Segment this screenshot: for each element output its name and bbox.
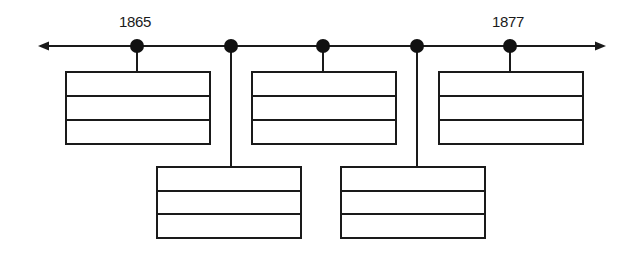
event-box-5-row-1[interactable] bbox=[440, 73, 582, 97]
event-box-1-row-2[interactable] bbox=[67, 97, 209, 121]
event-box-2-row-2[interactable] bbox=[158, 192, 300, 216]
event-box-4-row-3[interactable] bbox=[342, 215, 484, 237]
event-box-5-row-2[interactable] bbox=[440, 97, 582, 121]
timeline-dot-3 bbox=[316, 39, 330, 53]
event-box-2 bbox=[156, 166, 302, 239]
year-label-start: 1865 bbox=[119, 14, 151, 29]
event-box-4-row-2[interactable] bbox=[342, 192, 484, 216]
arrow-left-icon bbox=[38, 42, 49, 51]
event-box-3-row-3[interactable] bbox=[253, 121, 395, 143]
event-box-3-row-1[interactable] bbox=[253, 73, 395, 97]
event-box-4 bbox=[340, 166, 486, 239]
event-box-5 bbox=[438, 71, 584, 145]
event-box-2-row-1[interactable] bbox=[158, 168, 300, 192]
event-box-1-row-1[interactable] bbox=[67, 73, 209, 97]
timeline-dot-5 bbox=[503, 39, 517, 53]
event-box-1 bbox=[65, 71, 211, 145]
event-box-2-row-3[interactable] bbox=[158, 215, 300, 237]
timeline-dot-4 bbox=[410, 39, 424, 53]
timeline-dot-1 bbox=[130, 39, 144, 53]
year-label-end: 1877 bbox=[492, 14, 524, 29]
event-box-1-row-3[interactable] bbox=[67, 121, 209, 143]
event-box-4-row-1[interactable] bbox=[342, 168, 484, 192]
event-box-5-row-3[interactable] bbox=[440, 121, 582, 143]
arrow-right-icon bbox=[595, 42, 606, 51]
timeline-dot-2 bbox=[224, 39, 238, 53]
event-box-3 bbox=[251, 71, 397, 145]
event-box-3-row-2[interactable] bbox=[253, 97, 395, 121]
